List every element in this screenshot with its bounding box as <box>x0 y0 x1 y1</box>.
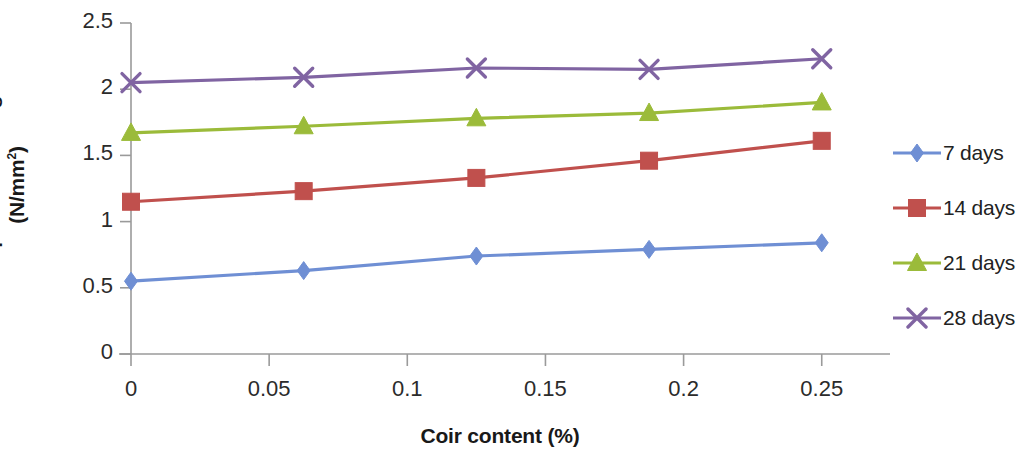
legend-item[interactable]: 28 days <box>893 305 1015 331</box>
x-axis-tick-label: 0.1 <box>362 376 452 402</box>
x-axis-tick-label: 0.05 <box>224 376 314 402</box>
x-axis-tick-label: 0.25 <box>777 376 867 402</box>
series-7-days <box>125 234 829 290</box>
legend-swatch-triangle-icon <box>893 252 941 274</box>
legend-swatch-diamond-icon <box>893 142 941 164</box>
x-axis-tick-label: 0.2 <box>639 376 729 402</box>
series-line <box>131 59 822 83</box>
y-axis-tick-label: 1.5 <box>49 140 113 166</box>
series-21-days <box>122 92 832 140</box>
x-axis-tick-label: 0.15 <box>500 376 590 402</box>
x-axis-tick-label: 0 <box>86 376 176 402</box>
marker-square <box>123 193 140 210</box>
data-point-square <box>295 183 312 200</box>
data-point-square <box>909 200 926 217</box>
chart-container: Compressive strength (N/mm2) Coir conten… <box>0 0 1019 458</box>
marker-diamond <box>911 144 924 162</box>
data-point-square <box>468 169 485 186</box>
data-point-square <box>813 132 830 149</box>
legend-label: 21 days <box>943 251 1015 275</box>
data-point-diamond <box>643 240 656 258</box>
marker-square <box>909 200 926 217</box>
legend-label: 14 days <box>943 196 1015 220</box>
legend-label: 7 days <box>943 141 1004 165</box>
marker-square <box>813 132 830 149</box>
legend-item[interactable]: 7 days <box>893 140 1004 166</box>
data-point-square <box>123 193 140 210</box>
data-point-diamond <box>297 262 310 280</box>
series-14-days <box>123 132 831 210</box>
y-axis-tick-label: 2 <box>49 74 113 100</box>
data-point-diamond <box>815 234 828 252</box>
marker-diamond <box>643 240 656 258</box>
legend-swatch-cross-icon <box>893 307 941 329</box>
marker-diamond <box>815 234 828 252</box>
data-point-diamond <box>911 144 924 162</box>
marker-diamond <box>297 262 310 280</box>
marker-square <box>468 169 485 186</box>
y-axis-tick-label: 0 <box>49 339 113 365</box>
legend-label: 28 days <box>943 306 1015 330</box>
marker-triangle <box>812 92 831 110</box>
data-point-diamond <box>470 247 483 265</box>
y-axis-tick-label: 2.5 <box>49 8 113 34</box>
legend-item[interactable]: 21 days <box>893 250 1015 276</box>
data-point-square <box>641 152 658 169</box>
marker-square <box>641 152 658 169</box>
y-axis-tick-label: 0.5 <box>49 273 113 299</box>
marker-square <box>295 183 312 200</box>
series-28-days <box>122 50 831 92</box>
y-axis-tick-label: 1 <box>49 207 113 233</box>
data-point-triangle <box>812 92 831 110</box>
legend-swatch-square-icon <box>893 197 941 219</box>
legend-item[interactable]: 14 days <box>893 195 1015 221</box>
marker-diamond <box>470 247 483 265</box>
